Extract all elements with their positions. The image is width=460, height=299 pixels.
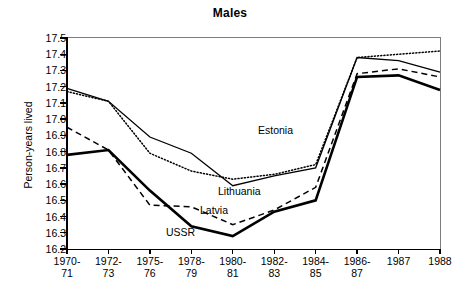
- x-tick-label-line: 1988: [408, 256, 460, 268]
- x-tick-mark: [356, 249, 357, 254]
- chart-container: Males Person-years lived 17.517.417.317.…: [0, 0, 460, 299]
- series-label-ussr: USSR: [166, 226, 195, 238]
- x-tick-mark: [439, 249, 440, 254]
- x-tick-label-line: 87: [325, 268, 389, 280]
- x-tick-mark: [232, 249, 233, 254]
- series-line-latvia: [67, 69, 440, 225]
- series-label-lithuania: Lithuania: [218, 185, 261, 197]
- series-line-ussr: [67, 75, 440, 236]
- x-tick-mark: [274, 249, 275, 254]
- series-label-estonia: Estonia: [258, 124, 293, 136]
- series-label-latvia: Latvia: [200, 204, 228, 216]
- x-tick-mark: [66, 249, 67, 254]
- x-tick-mark: [149, 249, 150, 254]
- x-tick-mark: [108, 249, 109, 254]
- x-tick-label: 1988: [408, 256, 460, 268]
- x-tick-mark: [191, 249, 192, 254]
- x-tick-mark: [315, 249, 316, 254]
- x-tick-mark: [398, 249, 399, 254]
